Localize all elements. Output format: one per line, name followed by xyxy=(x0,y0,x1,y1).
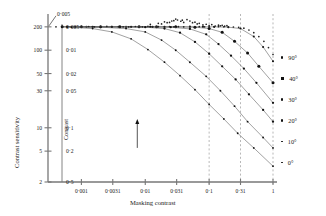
scatter-point xyxy=(61,26,63,28)
scatter-point xyxy=(122,26,124,28)
data-point xyxy=(208,27,211,30)
scatter-point xyxy=(161,23,163,25)
data-point xyxy=(164,61,166,63)
scatter-point xyxy=(198,22,200,24)
scatter-point xyxy=(157,26,159,28)
svg-text:0·005: 0·005 xyxy=(57,11,70,17)
scatter-point xyxy=(177,19,179,21)
data-point xyxy=(130,38,132,40)
legend-item-10deg: 10° xyxy=(281,131,326,152)
data-point xyxy=(189,28,191,30)
legend-marker-icon xyxy=(281,141,283,143)
svg-text:5: 5 xyxy=(39,148,42,154)
scatter-point xyxy=(192,22,194,24)
data-point xyxy=(205,33,207,35)
scatter-point xyxy=(272,54,274,56)
data-point xyxy=(179,32,181,34)
data-point xyxy=(272,120,274,122)
annotation-arrow xyxy=(135,119,139,124)
series-line-40° xyxy=(62,27,273,83)
scatter-point xyxy=(218,24,220,26)
data-point xyxy=(243,67,245,69)
y-axis-title-outer: Contrast sensitivity xyxy=(13,117,20,168)
scatter-point xyxy=(189,20,191,22)
scatter-point xyxy=(171,20,173,22)
svg-text:0·01: 0·01 xyxy=(66,47,76,53)
data-point xyxy=(237,132,239,134)
scatter-point xyxy=(224,25,226,27)
data-point xyxy=(248,93,250,95)
scatter-point xyxy=(226,25,228,27)
scatter-point xyxy=(194,26,196,28)
svg-text:2: 2 xyxy=(39,179,42,185)
scatter-point xyxy=(164,21,166,23)
series-line-10° xyxy=(67,27,273,148)
legend-item-0deg: 0° xyxy=(281,152,326,173)
scatter-point xyxy=(268,47,270,49)
data-point xyxy=(233,40,236,43)
data-point xyxy=(147,49,149,51)
scatter-point xyxy=(157,22,159,24)
data-point xyxy=(253,147,255,149)
data-point xyxy=(189,61,191,63)
scatter-point xyxy=(189,25,191,27)
data-point xyxy=(194,41,196,43)
data-point xyxy=(272,81,275,84)
chart-figure: Contrast sensitivity Contrast Masking co… xyxy=(0,0,326,216)
scatter-point xyxy=(135,26,137,28)
scatter-point xyxy=(147,25,149,27)
legend-item-40deg: 40° xyxy=(281,68,326,89)
scatter-point xyxy=(205,23,207,25)
scatter-point xyxy=(221,25,223,27)
scatter-point xyxy=(204,26,206,28)
scatter-point xyxy=(218,26,220,28)
scatter-point xyxy=(166,22,168,24)
scatter-point xyxy=(196,23,198,25)
scatter-point xyxy=(128,26,130,28)
scatter-point xyxy=(66,26,68,28)
scatter-point xyxy=(118,26,120,28)
scatter-point xyxy=(233,26,235,28)
svg-text:0·31: 0·31 xyxy=(235,188,245,194)
data-point xyxy=(272,165,274,167)
scatter-point xyxy=(253,32,255,34)
svg-text:1: 1 xyxy=(272,188,275,194)
data-point xyxy=(272,102,274,104)
svg-text:10: 10 xyxy=(36,125,42,131)
scatter-point xyxy=(141,26,143,28)
scatter-point xyxy=(178,26,180,28)
y-axis-title-inner: Contrast xyxy=(63,119,69,140)
scatter-point xyxy=(88,26,90,28)
scatter-point xyxy=(220,25,222,27)
scatter-point xyxy=(164,26,166,28)
data-point xyxy=(262,109,264,111)
data-point xyxy=(262,46,264,48)
legend-marker-icon xyxy=(281,98,283,100)
data-point xyxy=(92,28,94,30)
data-point xyxy=(219,90,221,92)
data-point xyxy=(272,147,274,149)
data-point xyxy=(221,31,224,34)
data-point xyxy=(272,60,274,62)
legend-label: 0° xyxy=(288,159,294,166)
scatter-point xyxy=(183,22,185,24)
data-point xyxy=(217,43,219,45)
legend-marker-icon xyxy=(281,119,283,121)
series-line-20° xyxy=(67,27,273,122)
data-point xyxy=(234,78,236,80)
data-point xyxy=(221,65,223,67)
scatter-point xyxy=(111,26,113,28)
data-point xyxy=(247,121,249,123)
scatter-point xyxy=(152,26,154,28)
scatter-point xyxy=(169,26,171,28)
scatter-point xyxy=(169,22,171,24)
scatter-point xyxy=(258,36,260,38)
legend-label: 40° xyxy=(289,75,298,82)
scatter-point xyxy=(173,20,175,22)
scatter-point xyxy=(106,25,108,27)
svg-text:50: 50 xyxy=(36,71,42,77)
svg-text:30: 30 xyxy=(36,88,42,94)
scatter-point xyxy=(208,25,210,27)
data-point xyxy=(230,55,232,57)
svg-text:100: 100 xyxy=(34,47,43,53)
